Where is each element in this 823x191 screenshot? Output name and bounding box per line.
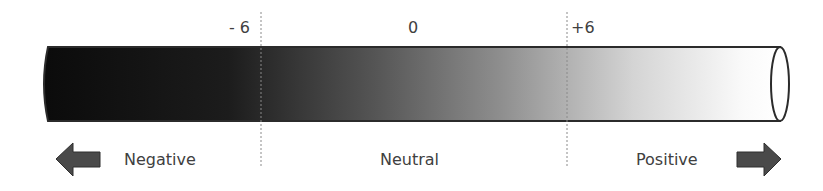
category-neutral: Neutral (380, 150, 439, 169)
sentiment-scale-diagram: - 6 0 +6 Negative Neutral Positive (0, 0, 823, 191)
category-negative: Negative (124, 150, 196, 169)
gradient-cylinder (44, 47, 789, 121)
cylinder-end-cap (771, 47, 789, 121)
arrow-left-icon (56, 143, 100, 176)
arrow-right-icon (737, 143, 781, 176)
tick-label-plus-6: +6 (571, 18, 595, 37)
category-positive: Positive (636, 150, 698, 169)
tick-label-minus-6: - 6 (229, 18, 250, 37)
tick-label-zero: 0 (408, 18, 418, 37)
